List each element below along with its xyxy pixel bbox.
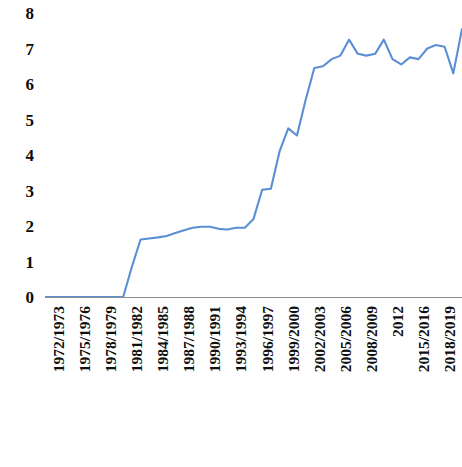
x-tick-label: 2005/2006 (338, 306, 354, 372)
x-tick-label: 2018/2019 (442, 306, 458, 372)
x-tick-label: 1984/1985 (155, 306, 171, 372)
y-tick-label: 3 (26, 182, 35, 199)
y-tick-label: 2 (26, 218, 35, 235)
x-tick-label: 1987/1988 (181, 306, 197, 372)
x-tick-label: 1990/1991 (207, 306, 223, 372)
y-tick-label: 8 (26, 5, 35, 22)
x-axis: 1972/19731975/19761978/19791981/19821984… (0, 300, 462, 467)
y-tick-label: 6 (26, 76, 35, 93)
x-tick-label: 1978/1979 (103, 306, 119, 372)
y-axis: 876543210 (0, 0, 46, 320)
y-tick-label: 7 (26, 40, 35, 57)
x-axis-line (45, 297, 462, 298)
x-tick-label: 2015/2016 (416, 306, 432, 372)
x-tick-label: 1999/2000 (286, 306, 302, 372)
y-tick-label: 1 (26, 253, 35, 270)
x-tick-label: 1981/1982 (129, 306, 145, 372)
series-line-svg (45, 0, 462, 300)
x-tick-label: 1972/1973 (51, 306, 67, 372)
x-tick-label: 1975/1976 (77, 306, 93, 372)
y-tick-label: 5 (26, 111, 35, 128)
x-tick-label: 2008/2009 (364, 306, 380, 372)
plot-area (45, 0, 462, 300)
line-chart: 876543210 1972/19731975/19761978/1979198… (0, 0, 462, 467)
series-line (45, 29, 462, 297)
x-tick-label: 1996/1997 (260, 306, 276, 372)
x-tick-label: 2012 (390, 306, 406, 337)
x-tick-label: 2002/2003 (312, 306, 328, 372)
x-tick-label: 1993/1994 (233, 306, 249, 372)
y-tick-label: 4 (26, 147, 35, 164)
